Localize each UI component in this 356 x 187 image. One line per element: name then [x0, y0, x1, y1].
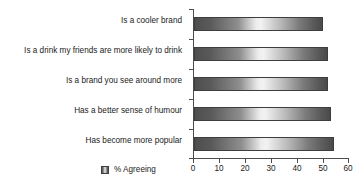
y-axis-tick [189, 69, 193, 70]
y-axis-tick [189, 39, 193, 40]
y-axis-tick [189, 9, 193, 10]
x-tick-mark [193, 159, 194, 163]
y-axis-tick [189, 129, 193, 130]
x-tick-mark [348, 159, 349, 163]
chart-legend: % Agreeing [101, 165, 156, 175]
y-axis-tick [189, 99, 193, 100]
x-tick-label-5: 50 [313, 164, 333, 174]
x-tick-label-0: 0 [183, 164, 203, 174]
bar-0[interactable] [194, 17, 323, 31]
bar-3[interactable] [194, 107, 331, 121]
x-tick-label-6: 60 [338, 164, 356, 174]
x-tick-label-2: 20 [235, 164, 255, 174]
x-tick-label-4: 40 [287, 164, 307, 174]
category-label-1: Is a drink my friends are more likely to… [24, 46, 182, 56]
x-tick-mark [219, 159, 220, 163]
x-tick-mark [323, 159, 324, 163]
legend-label-0: % Agreeing [114, 165, 156, 175]
bar-2[interactable] [194, 77, 328, 91]
bar-chart: Is a cooler brand Is a drink my friends … [0, 0, 356, 187]
plot-area [193, 9, 348, 158]
category-axis-labels: Is a cooler brand Is a drink my friends … [0, 0, 188, 158]
bar-4[interactable] [194, 137, 334, 151]
x-tick-mark [271, 159, 272, 163]
x-axis-ticks: 0 10 20 30 40 50 60 [193, 159, 349, 179]
x-tick-mark [297, 159, 298, 163]
x-tick-label-1: 10 [209, 164, 229, 174]
x-tick-mark [245, 159, 246, 163]
category-label-2: Is a brand you see around more [66, 76, 182, 86]
bar-1[interactable] [194, 47, 328, 61]
category-label-0: Is a cooler brand [121, 16, 182, 26]
legend-swatch-icon [101, 166, 109, 174]
x-tick-label-3: 30 [261, 164, 281, 174]
category-label-4: Has become more popular [86, 136, 182, 146]
category-label-3: Has a better sense of humour [74, 106, 182, 116]
